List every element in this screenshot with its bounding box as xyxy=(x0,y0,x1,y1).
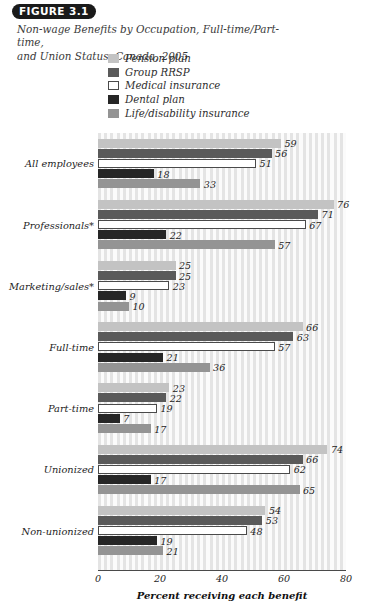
bar-value-label: 67 xyxy=(309,220,321,231)
bar-group: 7466621765 xyxy=(98,445,346,496)
bar xyxy=(98,383,169,392)
bar xyxy=(98,414,120,423)
category-label: Marketing/sales* xyxy=(4,281,94,292)
x-axis-line xyxy=(98,570,346,571)
bar xyxy=(98,363,210,372)
bar xyxy=(98,220,306,229)
figure-number-badge: FIGURE 3.1 xyxy=(12,4,96,19)
bar-value-label: 76 xyxy=(337,199,349,210)
bar xyxy=(98,302,129,311)
bar xyxy=(98,485,300,494)
bar-value-label: 18 xyxy=(157,169,169,180)
plot-area: 5956511833767167225725252391066635721362… xyxy=(98,133,346,570)
legend-label: Life/disability insurance xyxy=(125,108,250,119)
x-axis-title: Percent receiving each benefit xyxy=(98,590,346,601)
bar-value-label: 71 xyxy=(322,209,334,220)
category-label: Full-time xyxy=(4,342,94,353)
bar xyxy=(98,200,334,209)
bar xyxy=(98,393,166,402)
bar xyxy=(98,169,154,178)
bar-value-label: 66 xyxy=(306,454,318,465)
bar-value-label: 33 xyxy=(204,179,216,190)
bar xyxy=(98,240,275,249)
legend-item: Dental plan xyxy=(108,93,250,107)
legend-swatch-icon xyxy=(108,81,119,90)
bar-group: 252523910 xyxy=(98,261,346,312)
bar xyxy=(98,546,163,555)
bar-value-label: 57 xyxy=(278,240,290,251)
bar-value-label: 23 xyxy=(173,281,185,292)
bar-value-label: 17 xyxy=(154,424,166,435)
category-label: Professionals* xyxy=(4,220,94,231)
bar-value-label: 62 xyxy=(294,464,306,475)
bar-value-label: 7 xyxy=(123,413,129,424)
category-label: Part-time xyxy=(4,403,94,414)
bar-value-label: 48 xyxy=(250,526,262,537)
bar xyxy=(98,342,275,351)
legend-label: Dental plan xyxy=(125,94,185,105)
bar xyxy=(98,506,265,515)
bar xyxy=(98,322,303,331)
bar xyxy=(98,536,157,545)
bar xyxy=(98,139,281,148)
bar-value-label: 57 xyxy=(278,342,290,353)
bar xyxy=(98,261,176,270)
legend-item: Medical insurance xyxy=(108,79,250,93)
figure-title-line1: Non-wage Benefits by Occupation, Full-ti… xyxy=(17,23,279,48)
x-tick-label: 60 xyxy=(278,573,290,584)
bar xyxy=(98,230,166,239)
category-label: Non-unionized xyxy=(4,526,94,537)
bar-value-label: 53 xyxy=(266,515,278,526)
x-tick-label: 40 xyxy=(216,573,228,584)
bar xyxy=(98,291,126,300)
bar xyxy=(98,149,272,158)
bar-value-label: 10 xyxy=(133,301,145,312)
x-tick-label: 20 xyxy=(154,573,166,584)
legend-label: Medical insurance xyxy=(125,80,220,91)
legend-swatch-icon xyxy=(108,109,119,118)
legend-label: Pension plan xyxy=(125,53,191,64)
legend-swatch-icon xyxy=(108,95,119,104)
x-tick-label: 0 xyxy=(95,573,101,584)
bar xyxy=(98,404,157,413)
bar-group: 7671672257 xyxy=(98,200,346,251)
bar xyxy=(98,159,256,168)
bar xyxy=(98,475,151,484)
bar xyxy=(98,465,290,474)
legend-item: Life/disability insurance xyxy=(108,106,250,120)
bar xyxy=(98,445,327,454)
category-label: Unionized xyxy=(4,464,94,475)
figure-container: FIGURE 3.1Non-wage Benefits by Occupatio… xyxy=(0,0,380,611)
bar xyxy=(98,179,200,188)
bar-value-label: 22 xyxy=(170,230,182,241)
bar-value-label: 56 xyxy=(275,148,287,159)
bar-value-label: 65 xyxy=(303,485,315,496)
bar xyxy=(98,516,262,525)
bar xyxy=(98,526,247,535)
bar xyxy=(98,210,318,219)
bar xyxy=(98,271,176,280)
bar-value-label: 51 xyxy=(260,158,272,169)
bar xyxy=(98,424,151,433)
legend-swatch-icon xyxy=(108,68,119,77)
bar xyxy=(98,455,303,464)
legend-item: Group RRSP xyxy=(108,66,250,80)
bar xyxy=(98,353,163,362)
bar-group: 232219717 xyxy=(98,383,346,434)
category-label: All employees xyxy=(4,158,94,169)
bar xyxy=(98,332,293,341)
bar-value-label: 74 xyxy=(331,444,343,455)
bar-value-label: 17 xyxy=(154,475,166,486)
bar-value-label: 21 xyxy=(167,352,179,363)
legend-label: Group RRSP xyxy=(125,67,190,78)
bar-value-label: 36 xyxy=(213,362,225,373)
bar-group: 5453481921 xyxy=(98,506,346,557)
legend-swatch-icon xyxy=(108,54,119,63)
x-tick-label: 80 xyxy=(340,573,352,584)
bar-group: 6663572136 xyxy=(98,322,346,373)
bar-group: 5956511833 xyxy=(98,139,346,190)
legend-item: Pension plan xyxy=(108,52,250,66)
bar-value-label: 21 xyxy=(167,546,179,557)
bar-value-label: 63 xyxy=(297,332,309,343)
bar xyxy=(98,281,169,290)
